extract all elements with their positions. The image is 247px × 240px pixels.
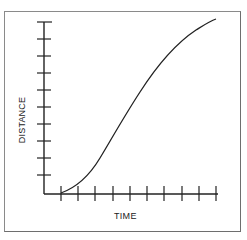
y-axis-label: DISTANCE xyxy=(17,90,27,150)
chart-plot-area xyxy=(0,0,247,240)
x-axis-label: TIME xyxy=(114,211,137,221)
distance-time-curve xyxy=(61,19,216,193)
